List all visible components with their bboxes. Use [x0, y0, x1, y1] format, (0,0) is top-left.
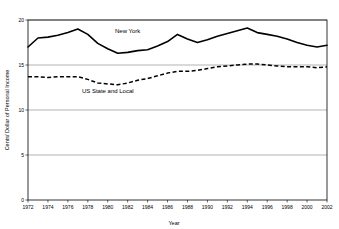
- series-line-new-york: [28, 28, 327, 53]
- y-tick-label-0: 0: [21, 197, 24, 203]
- x-tick-label-2002: 2002: [321, 204, 332, 210]
- y-axis-ticks: 05101520: [18, 17, 28, 203]
- line-chart-svg: 1972197419761978198019821984198619881990…: [0, 0, 339, 229]
- x-tick-label-1998: 1998: [282, 204, 293, 210]
- x-tick-label-1976: 1976: [62, 204, 73, 210]
- x-axis-ticks: 1972197419761978198019821984198619881990…: [22, 200, 332, 210]
- x-tick-label-1986: 1986: [162, 204, 173, 210]
- series-line-us-state-and-local: [28, 64, 327, 85]
- x-tick-label-1990: 1990: [202, 204, 213, 210]
- x-tick-label-1984: 1984: [142, 204, 153, 210]
- plot-area: 1972197419761978198019821984198619881990…: [0, 0, 339, 229]
- x-tick-label-1992: 1992: [222, 204, 233, 210]
- y-tick-label-15: 15: [18, 62, 24, 68]
- x-tick-label-1994: 1994: [242, 204, 253, 210]
- x-tick-label-1988: 1988: [182, 204, 193, 210]
- gridlines: [28, 20, 327, 155]
- x-tick-label-1978: 1978: [82, 204, 93, 210]
- x-tick-label-1982: 1982: [122, 204, 133, 210]
- x-tick-label-1974: 1974: [42, 204, 53, 210]
- chart-container: 1972197419761978198019821984198619881990…: [0, 0, 339, 229]
- series-label-new-york: New York: [115, 28, 141, 34]
- series-label-us-state-and-local: US State and Local: [82, 88, 134, 94]
- y-tick-label-20: 20: [18, 17, 24, 23]
- x-axis-title: Year: [168, 220, 179, 226]
- y-axis-title: Cents/ Dollar of Personal Income: [4, 70, 10, 151]
- data-series: [28, 28, 327, 85]
- x-tick-label-1980: 1980: [102, 204, 113, 210]
- x-tick-label-1972: 1972: [22, 204, 33, 210]
- x-tick-label-2000: 2000: [302, 204, 313, 210]
- x-tick-label-1996: 1996: [262, 204, 273, 210]
- y-tick-label-5: 5: [21, 152, 24, 158]
- y-tick-label-10: 10: [18, 107, 24, 113]
